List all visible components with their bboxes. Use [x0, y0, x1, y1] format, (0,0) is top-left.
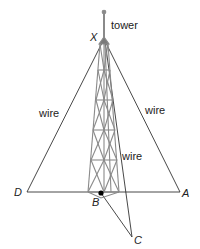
point-label-b: B — [92, 196, 99, 208]
label-wire-left: wire — [38, 107, 59, 119]
point-label-a: A — [181, 187, 189, 199]
point-label-d: D — [14, 186, 22, 198]
segment-bc — [101, 193, 132, 237]
label-wire-middle: wire — [121, 150, 142, 162]
wire-xa — [105, 41, 180, 192]
point-b-marker — [98, 190, 103, 195]
point-label-c: C — [134, 234, 142, 246]
label-tower: tower — [111, 19, 138, 31]
label-wire-right: wire — [144, 104, 165, 116]
point-label-x: X — [89, 31, 98, 43]
diagram-canvas: tower wire wire wire X D A B C — [0, 0, 200, 249]
